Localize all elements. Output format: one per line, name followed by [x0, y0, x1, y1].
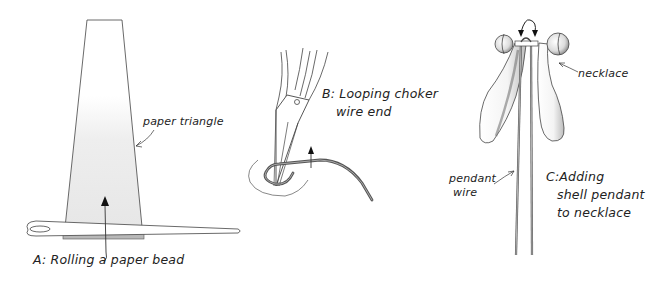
rotate-arrow-left-icon: [518, 30, 524, 37]
necklace-bar: [515, 41, 538, 46]
label-paper-triangle: paper triangle: [143, 115, 224, 128]
illustration-svg: [0, 0, 651, 281]
arrow-up-icon-b: [308, 146, 314, 154]
bead-left: [495, 35, 513, 53]
rotate-arrow-right-icon: [532, 30, 538, 37]
caption-a: A: Rolling a paper bead: [33, 252, 184, 267]
label-pendant-line1: pendant: [449, 172, 496, 185]
caption-c-line2: shell pendant: [557, 187, 645, 202]
panel-b-looping-wire: [249, 48, 372, 200]
shell-right: [538, 43, 564, 141]
caption-b-line2: wire end: [336, 104, 392, 119]
caption-c-line1: C:Adding: [546, 169, 604, 184]
panel-a-paper-bead: [27, 20, 240, 262]
caption-b-line1: B: Looping choker: [322, 86, 438, 101]
caption-c-line3: to necklace: [557, 205, 631, 220]
illustration-canvas: paper triangle A: Rolling a paper bead B…: [0, 0, 651, 281]
pliers-pivot: [295, 100, 300, 105]
label-pendant-line2: wire: [453, 186, 477, 199]
needle-eye: [30, 226, 50, 232]
label-necklace: necklace: [578, 67, 628, 80]
